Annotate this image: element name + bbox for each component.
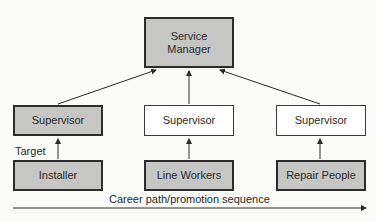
arrow-left-supervisor-to-manager xyxy=(58,70,156,104)
supervisor-box-installer: Supervisor xyxy=(13,105,103,136)
service-manager-label-line2: Manager xyxy=(167,43,210,56)
line-workers-box: Line Workers xyxy=(144,160,234,191)
supervisor-box-repair-people: Supervisor xyxy=(276,105,366,136)
installer-label: Installer xyxy=(39,169,78,182)
arrow-right-supervisor-to-manager xyxy=(220,70,320,104)
supervisor-label: Supervisor xyxy=(295,114,348,127)
installer-box: Installer xyxy=(13,160,103,191)
service-manager-label-line1: Service xyxy=(171,30,208,43)
supervisor-box-line-workers: Supervisor xyxy=(144,105,234,136)
repair-people-box: Repair People xyxy=(276,160,366,191)
service-manager-box: Service Manager xyxy=(144,17,234,68)
repair-people-label: Repair People xyxy=(286,169,356,182)
target-label: Target xyxy=(15,145,46,157)
career-path-caption: Career path/promotion sequence xyxy=(109,193,270,205)
supervisor-label: Supervisor xyxy=(32,114,85,127)
supervisor-label: Supervisor xyxy=(163,114,216,127)
line-workers-label: Line Workers xyxy=(157,169,222,182)
